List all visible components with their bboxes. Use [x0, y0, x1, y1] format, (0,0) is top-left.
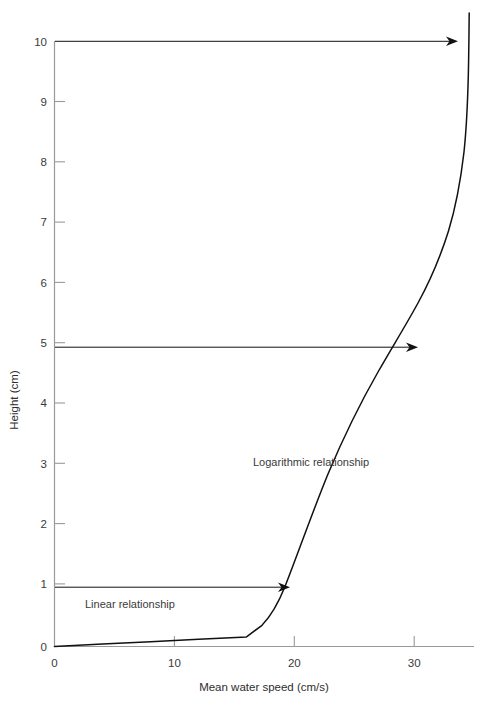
y-tick-label-8: 8 [41, 156, 47, 168]
annotation-arrow-height-5 [55, 343, 418, 352]
y-tick-label-2: 2 [41, 518, 47, 530]
annotation-arrow-height-10 [55, 37, 458, 46]
x-axis-tick-labels: 0 10 20 30 [51, 657, 420, 669]
y-tick-label-10: 10 [34, 36, 47, 48]
logarithmic-relationship-label: Logarithmic relationship [253, 456, 369, 468]
linear-relationship-label: Linear relationship [85, 598, 175, 610]
y-axis-ticks [55, 102, 65, 584]
y-axis-tick-labels: 10 9 8 7 6 5 4 3 2 1 0 [34, 36, 47, 653]
x-axis-title: Mean water speed (cm/s) [199, 681, 329, 693]
y-tick-label-5: 5 [41, 337, 47, 349]
x-tick-label-10: 10 [168, 657, 181, 669]
x-tick-label-20: 20 [288, 657, 301, 669]
x-axis-ticks [174, 636, 414, 646]
water-speed-profile-curve [55, 13, 470, 647]
y-tick-label-6: 6 [41, 277, 47, 289]
y-tick-label-3: 3 [41, 458, 47, 470]
x-tick-label-0: 0 [51, 657, 57, 669]
y-tick-label-1: 1 [41, 578, 47, 590]
x-tick-label-30: 30 [408, 657, 421, 669]
y-axis-title: Height (cm) [8, 370, 20, 430]
annotation-arrow-height-1 [55, 583, 290, 592]
water-speed-profile-chart: 10 9 8 7 6 5 4 3 2 1 0 0 10 20 30 Mean w… [0, 0, 499, 713]
chart-figure: 10 9 8 7 6 5 4 3 2 1 0 0 10 20 30 Mean w… [0, 0, 499, 713]
y-tick-label-4: 4 [41, 397, 48, 409]
y-tick-label-7: 7 [41, 216, 47, 228]
y-tick-label-9: 9 [41, 96, 47, 108]
y-tick-label-0: 0 [41, 641, 47, 653]
